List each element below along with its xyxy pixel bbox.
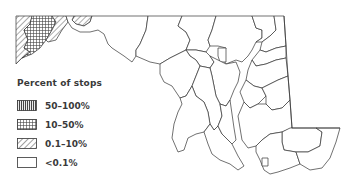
legend-item-under-0.1: <0.1%: [17, 153, 102, 172]
vertical-lines-swatch-icon: [17, 100, 37, 111]
legend-label: <0.1%: [45, 158, 78, 168]
legend-item-50-100: 50–100%: [17, 96, 102, 115]
diagonal-hatch-swatch-icon: [17, 138, 37, 149]
legend-label: 0.1–10%: [45, 139, 87, 149]
county-baltimore-city: [218, 48, 226, 62]
grid-swatch-icon: [17, 119, 37, 130]
legend-title: Percent of stops: [17, 78, 102, 88]
delaware-border: [284, 16, 340, 128]
legend-item-0.1-10: 0.1–10%: [17, 134, 102, 153]
map-legend: Percent of stops 50–100% 10–50% 0.1–10% …: [17, 78, 102, 172]
legend-item-10-50: 10–50%: [17, 115, 102, 134]
county-baltimore: [208, 16, 262, 64]
legend-label: 50–100%: [45, 101, 90, 111]
legend-label: 10–50%: [45, 120, 84, 130]
smith-island: [262, 158, 268, 166]
empty-swatch-icon: [17, 157, 37, 168]
